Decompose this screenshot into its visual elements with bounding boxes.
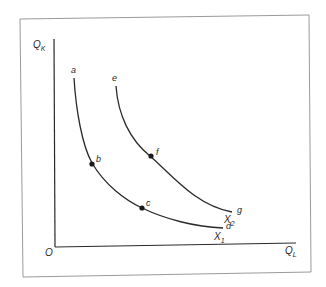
point-c xyxy=(139,205,144,210)
figure-frame xyxy=(20,15,311,277)
label-b: b xyxy=(96,154,101,164)
label-a: a xyxy=(71,65,76,75)
label-e: e xyxy=(112,73,117,83)
point-b xyxy=(89,161,94,166)
origin-label: O xyxy=(45,247,53,258)
point-f xyxy=(148,153,153,158)
label-g: g xyxy=(237,205,242,215)
label-c: c xyxy=(146,198,151,208)
isoquant-diagram: QK QL O a e d g b c f X1 X2 xyxy=(0,0,326,287)
